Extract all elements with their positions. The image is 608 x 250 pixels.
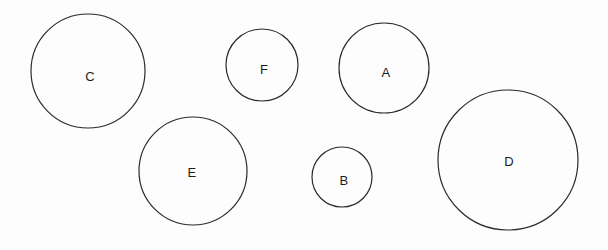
circles-figure-canvas: CFAEBD [0,0,608,250]
circle-d[interactable]: D [438,90,578,230]
circles-diagram: CFAEBD [0,0,608,250]
circle-f-label: F [260,62,268,77]
circle-e[interactable]: E [139,117,247,225]
circle-d-label: D [504,154,514,169]
circle-c-label: C [85,69,95,84]
circles-group: CFAEBD [31,14,578,230]
circle-b[interactable]: B [312,147,372,207]
circle-a[interactable]: A [339,23,429,113]
circle-e-label: E [188,165,197,180]
circle-b-label: B [340,173,349,188]
circle-c[interactable]: C [31,14,145,128]
circle-a-label: A [382,65,391,80]
circle-f[interactable]: F [226,29,298,101]
